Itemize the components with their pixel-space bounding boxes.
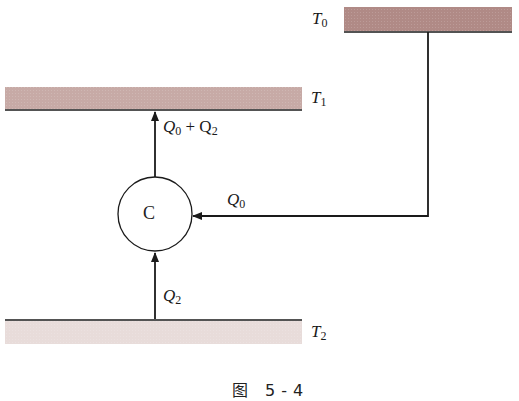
label-t2: T2 bbox=[311, 322, 326, 344]
label-q2: Q2 bbox=[163, 286, 181, 308]
label-q0: Q0 bbox=[227, 190, 245, 212]
figure-caption: 图 5-4 bbox=[232, 377, 309, 401]
engine-label: C bbox=[143, 203, 155, 224]
reservoir-t1 bbox=[5, 87, 302, 110]
label-q0-plus-q2: Q0 + Q2 bbox=[163, 117, 218, 139]
label-t0: T0 bbox=[312, 9, 327, 31]
reservoir-t2 bbox=[5, 320, 302, 344]
line-q0-path bbox=[202, 32, 428, 216]
label-t1: T1 bbox=[311, 88, 326, 110]
reservoir-t0 bbox=[344, 7, 512, 32]
